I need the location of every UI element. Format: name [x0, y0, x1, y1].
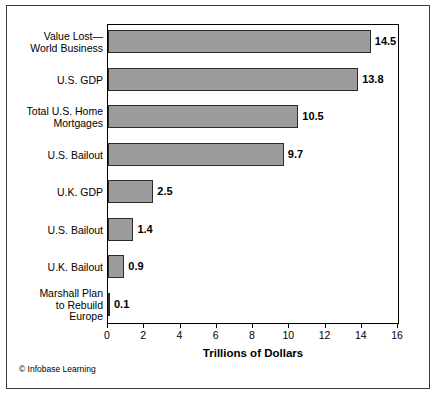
- bar-row: 10.5: [108, 100, 400, 134]
- x-axis-tick-label: 6: [213, 329, 219, 341]
- bar: [108, 255, 124, 278]
- bar-row: 0.9: [108, 250, 400, 284]
- bar-row: 2.5: [108, 175, 400, 209]
- category-label: Total U.S. HomeMortgages: [11, 106, 107, 129]
- bar: [108, 30, 371, 53]
- bar-value-label: 9.7: [288, 149, 303, 160]
- category-label: U.S. Bailout: [11, 150, 107, 162]
- x-axis-tick-label: 2: [140, 329, 146, 341]
- bar-value-label: 0.1: [114, 299, 129, 310]
- x-axis-tick-label: 14: [355, 329, 367, 341]
- category-axis-labels: Value Lost—World BusinessU.S. GDPTotal U…: [7, 24, 107, 324]
- bar-row: 14.5: [108, 25, 400, 59]
- bar-value-label: 0.9: [128, 261, 143, 272]
- bar-value-label: 14.5: [375, 36, 396, 47]
- x-axis-tick-label: 16: [391, 329, 403, 341]
- credit-line: © Infobase Learning: [19, 364, 96, 374]
- x-axis-tick: [180, 324, 181, 328]
- bar-value-label: 2.5: [157, 186, 172, 197]
- category-label: U.K. GDP: [11, 187, 107, 199]
- bar: [108, 218, 133, 241]
- bar-value-label: 1.4: [137, 224, 152, 235]
- category-label: Marshall Planto RebuildEurope: [11, 288, 107, 323]
- x-axis-tick-label: 10: [282, 329, 294, 341]
- bar-row: 13.8: [108, 63, 400, 97]
- x-axis-tick-label: 8: [249, 329, 255, 341]
- bar-row: 1.4: [108, 213, 400, 247]
- x-axis-tick: [143, 324, 144, 328]
- bar-row: 0.1: [108, 288, 400, 322]
- x-axis-tick: [107, 324, 108, 328]
- x-axis: 0246810121416: [107, 324, 399, 344]
- x-axis-tick: [361, 324, 362, 328]
- x-axis-tick-label: 4: [177, 329, 183, 341]
- chart-container: Value Lost—World BusinessU.S. GDPTotal U…: [6, 5, 430, 389]
- bar: [108, 105, 298, 128]
- bar: [108, 293, 110, 316]
- x-axis-tick: [397, 324, 398, 328]
- x-axis-tick: [252, 324, 253, 328]
- x-axis-tick: [216, 324, 217, 328]
- category-label: Value Lost—World Business: [11, 31, 107, 54]
- bar: [108, 180, 153, 203]
- x-axis-tick: [288, 324, 289, 328]
- x-axis-tick-label: 12: [319, 329, 331, 341]
- x-axis-tick-label: 0: [104, 329, 110, 341]
- bar-value-label: 10.5: [302, 111, 323, 122]
- plot-area: 14.513.810.59.72.51.40.90.1: [107, 24, 399, 324]
- category-label: U.S. Bailout: [11, 225, 107, 237]
- bar-row: 9.7: [108, 138, 400, 172]
- bar: [108, 68, 358, 91]
- bar: [108, 143, 284, 166]
- x-axis-title: Trillions of Dollars: [107, 347, 399, 359]
- category-label: U.S. GDP: [11, 75, 107, 87]
- bar-value-label: 13.8: [362, 74, 383, 85]
- x-axis-tick: [325, 324, 326, 328]
- category-label: U.K. Bailout: [11, 262, 107, 274]
